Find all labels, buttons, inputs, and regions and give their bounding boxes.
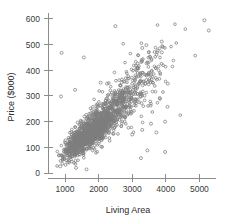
data-point — [154, 46, 157, 49]
y-axis-title: Price ($000) — [6, 72, 16, 121]
data-point — [113, 71, 116, 74]
data-point — [157, 69, 160, 72]
data-point — [131, 133, 134, 136]
data-point — [194, 54, 197, 57]
data-point — [140, 115, 143, 118]
data-point — [156, 101, 159, 104]
data-point — [139, 157, 142, 160]
data-point — [142, 105, 145, 108]
data-point — [145, 91, 148, 94]
data-point — [115, 79, 118, 82]
data-point — [151, 111, 154, 114]
data-point — [64, 164, 67, 167]
data-point — [61, 162, 64, 165]
data-point — [151, 90, 154, 93]
data-point — [174, 23, 177, 26]
scatter-chart: 0100200300400500600 10002000300040005000… — [0, 0, 231, 220]
data-point — [155, 53, 158, 56]
data-point — [141, 84, 144, 87]
data-point — [85, 168, 88, 171]
data-point — [155, 131, 158, 134]
data-point — [147, 105, 150, 108]
data-point — [59, 165, 62, 168]
data-point — [159, 56, 162, 59]
data-point — [150, 122, 153, 125]
data-point — [171, 65, 174, 68]
data-point — [140, 42, 143, 45]
x-axis-title: Living Area — [106, 205, 151, 215]
y-tick-label: 200 — [26, 117, 40, 127]
data-point — [130, 126, 133, 129]
y-tick-label: 100 — [26, 143, 40, 153]
data-point — [60, 144, 63, 147]
data-point — [141, 46, 144, 49]
data-point — [203, 19, 206, 22]
data-point — [56, 150, 59, 153]
data-point — [153, 85, 156, 88]
data-point — [85, 113, 88, 116]
y-axis: 0100200300400500600 — [26, 13, 53, 178]
y-tick-label: 600 — [26, 14, 40, 24]
data-point — [184, 28, 187, 31]
data-point — [141, 121, 144, 124]
data-point — [160, 51, 163, 54]
x-tick-label: 3000 — [123, 184, 142, 194]
data-point — [156, 24, 159, 27]
data-point — [207, 29, 210, 32]
y-tick-label: 0 — [35, 168, 40, 178]
data-point — [75, 166, 78, 169]
data-point — [156, 49, 159, 52]
data-point — [154, 90, 157, 93]
plot-area: 0100200300400500600 10002000300040005000… — [0, 0, 231, 220]
data-point — [121, 78, 124, 81]
data-point — [157, 65, 160, 68]
data-point — [131, 76, 134, 79]
data-point — [93, 98, 96, 101]
data-point — [124, 61, 127, 64]
x-tick-label: 1000 — [56, 184, 75, 194]
data-point — [99, 81, 102, 84]
data-point — [129, 52, 132, 55]
y-tick-label: 400 — [26, 66, 40, 76]
data-point — [166, 82, 169, 85]
data-point — [172, 59, 175, 62]
data-point — [109, 85, 112, 88]
x-axis: 10002000300040005000 — [48, 174, 217, 194]
data-point — [164, 120, 167, 123]
data-point — [98, 90, 101, 93]
data-point — [164, 65, 167, 68]
data-point — [114, 25, 117, 28]
x-tick-label: 4000 — [156, 184, 175, 194]
data-point — [147, 66, 150, 69]
data-point — [136, 62, 139, 65]
data-point — [127, 126, 130, 129]
data-point — [76, 121, 79, 124]
data-point — [166, 105, 169, 108]
data-points-layer — [56, 19, 211, 171]
data-point — [164, 150, 167, 153]
data-point — [170, 45, 173, 48]
data-point — [175, 42, 178, 45]
data-point — [145, 44, 148, 47]
x-tick-label: 2000 — [89, 184, 108, 194]
data-point — [82, 56, 85, 59]
y-tick-label: 300 — [26, 91, 40, 101]
data-point — [108, 139, 111, 142]
data-point — [153, 51, 156, 54]
data-point — [143, 99, 146, 102]
data-point — [74, 88, 77, 91]
data-point — [146, 149, 149, 152]
data-point — [158, 77, 161, 80]
data-point — [118, 79, 121, 82]
x-tick-label: 5000 — [190, 184, 209, 194]
data-point — [145, 79, 148, 82]
data-point — [101, 91, 104, 94]
data-point — [82, 156, 85, 159]
data-point — [160, 40, 163, 43]
data-point — [59, 95, 62, 98]
data-point — [141, 128, 144, 131]
data-point — [77, 159, 80, 162]
data-point — [131, 83, 134, 86]
data-point — [74, 159, 77, 162]
data-point — [122, 42, 125, 45]
